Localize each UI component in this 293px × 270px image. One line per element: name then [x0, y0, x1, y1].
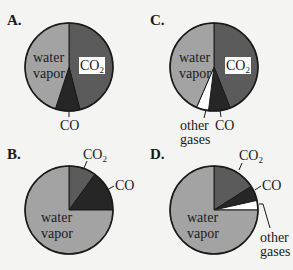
pie-d-other-label-1: other [260, 230, 289, 245]
pie-c-water-label-1: water [179, 50, 210, 65]
pie-d-co-label: CO [262, 178, 281, 193]
pie-b-co2-leader [84, 161, 87, 168]
pie-c-other-label-2: gases [180, 132, 210, 147]
pie-b-co2-label: CO2 [83, 147, 107, 164]
pie-c-other-leader [204, 110, 206, 118]
pie-a-co-label: CO [60, 118, 79, 133]
pie-d-co2-label: CO2 [239, 148, 263, 165]
pie-d-water-label-2: vapor [187, 226, 219, 241]
pie-c-other-label-1: other [180, 118, 209, 133]
pie-c-co-label: CO [215, 118, 234, 133]
pie-a-water-label-2: vapor [33, 66, 65, 81]
pie-d-co2-leader [239, 163, 242, 170]
pie-d-water-label-1: water [187, 210, 218, 225]
pie-b-water-label-1: water [41, 210, 72, 225]
pie-d-other-label-2: gases [260, 244, 290, 259]
pie-c-water-label-2: vapor [179, 66, 211, 81]
pie-a-water-label-1: water [33, 50, 64, 65]
pie-b-water-label-2: vapor [41, 226, 73, 241]
pie-d-co-leader [255, 186, 261, 190]
pie-b-co-label: CO [115, 178, 134, 193]
pie-d-other-leader [259, 204, 270, 228]
pie-b-co-leader [107, 186, 114, 190]
pie-charts-figure: water vapor CO2 CO water vapor CO2 CO ot… [0, 0, 293, 270]
